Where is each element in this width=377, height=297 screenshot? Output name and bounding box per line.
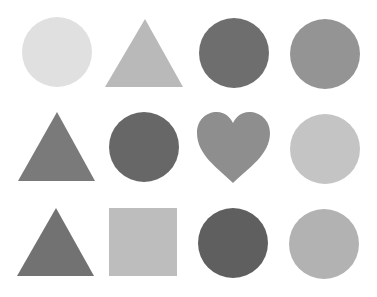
circle-shape-r3c3 xyxy=(198,208,268,278)
circle-shape-r3c4 xyxy=(289,209,359,279)
circle-shape-r2c2 xyxy=(109,112,179,182)
circle-shape-r1c4 xyxy=(290,19,360,89)
circle-shape-r2c4 xyxy=(290,114,360,184)
triangle-shape-r3c1 xyxy=(17,208,94,276)
circle-shape-r1c3 xyxy=(199,18,269,88)
shapes-canvas xyxy=(0,0,377,297)
circle-shape-r1c1 xyxy=(22,17,92,87)
heart-shape-r2c3 xyxy=(197,112,270,183)
square-shape-r3c2 xyxy=(109,208,177,276)
triangle-shape-r1c2 xyxy=(105,19,183,87)
triangle-shape-r2c1 xyxy=(18,112,95,181)
